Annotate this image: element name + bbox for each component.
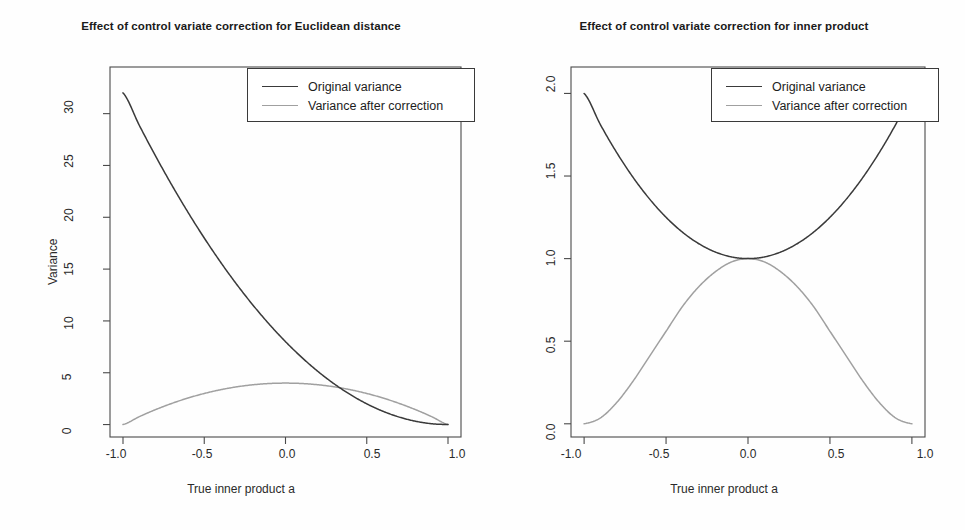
ytick-label: 15	[62, 262, 76, 275]
legend-right: Original variance Variance after correct…	[711, 68, 939, 122]
legend-label: Variance after correction	[308, 99, 443, 113]
ytick-label: 1.0	[544, 250, 558, 267]
legend-label: Original variance	[772, 80, 866, 94]
xtick-label: 1.0	[449, 447, 466, 461]
xtick-label: -1.0	[561, 447, 582, 461]
ytick-label: 5	[60, 374, 74, 381]
ytick-label: 20	[62, 208, 76, 221]
xtick-label: 0.0	[279, 447, 296, 461]
legend-item-original: Original variance	[248, 77, 474, 96]
legend-line-swatch-corrected	[726, 105, 762, 106]
ytick-label: 30	[62, 100, 76, 113]
plot-panel-inner-product: Effect of control variate correction for…	[483, 0, 965, 530]
xtick-label: -0.5	[649, 447, 670, 461]
x-axis-title: True inner product a	[0, 482, 482, 496]
ytick-label: 0	[60, 428, 74, 435]
xtick-label: 0.5	[828, 447, 845, 461]
legend-label: Original variance	[308, 80, 402, 94]
xtick-label: 0.5	[364, 447, 381, 461]
xtick-label: -1.0	[106, 447, 127, 461]
legend-line-swatch-original	[262, 86, 298, 87]
ytick-label: 25	[62, 154, 76, 167]
xtick-label: 0.0	[740, 447, 757, 461]
ytick-label: 0.0	[544, 424, 558, 441]
legend-item-original: Original variance	[712, 77, 938, 96]
ytick-label: 1.5	[544, 163, 558, 180]
y-axis-title: Variance	[46, 239, 60, 285]
ytick-label: 0.5	[544, 337, 558, 354]
x-axis-title: True inner product a	[483, 482, 965, 496]
xtick-label: -0.5	[192, 447, 213, 461]
legend-line-swatch-corrected	[262, 105, 298, 106]
plot-panel-euclidean: Effect of control variate correction for…	[0, 0, 482, 530]
legend-item-corrected: Variance after correction	[712, 96, 938, 115]
xtick-label: 1.0	[917, 447, 934, 461]
legend-label: Variance after correction	[772, 99, 907, 113]
legend-item-corrected: Variance after correction	[248, 96, 474, 115]
legend-left: Original variance Variance after correct…	[247, 68, 475, 122]
legend-line-swatch-original	[726, 86, 762, 87]
ytick-label: 10	[62, 316, 76, 329]
ytick-label: 2.0	[544, 76, 558, 93]
